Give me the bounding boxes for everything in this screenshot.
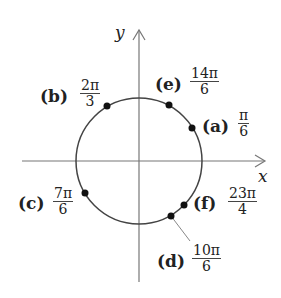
x-axis-label: x bbox=[258, 166, 268, 186]
leader-line-d bbox=[171, 216, 190, 241]
label-d-tag: (d) bbox=[157, 251, 185, 271]
label-e-value: 14π6 bbox=[190, 66, 219, 97]
point-b bbox=[104, 103, 111, 110]
label-a-tag: (a) bbox=[202, 116, 229, 136]
label-f-tag: (f) bbox=[193, 193, 216, 213]
point-e bbox=[166, 102, 173, 109]
label-c-value: 7π6 bbox=[53, 186, 73, 217]
point-d bbox=[168, 213, 175, 220]
label-b-tag: (b) bbox=[40, 86, 68, 106]
point-c bbox=[82, 190, 89, 197]
label-d-value: 10π6 bbox=[192, 243, 221, 274]
point-f bbox=[181, 202, 188, 209]
label-a-value: π6 bbox=[238, 108, 249, 139]
label-e-tag: (e) bbox=[155, 74, 182, 94]
y-axis-label: y bbox=[115, 22, 125, 42]
label-b-value: 2π3 bbox=[80, 78, 100, 109]
unit-circle-diagram bbox=[0, 0, 281, 298]
label-f-value: 23π4 bbox=[228, 186, 257, 217]
label-c-tag: (c) bbox=[18, 193, 44, 213]
point-a bbox=[189, 125, 196, 132]
